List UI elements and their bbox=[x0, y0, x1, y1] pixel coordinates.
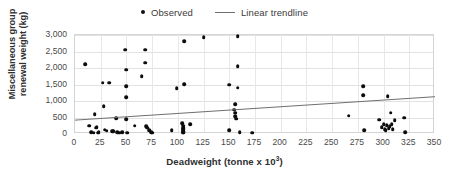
linear-trendline bbox=[75, 35, 435, 134]
y-axis-tick-label: 2,000 bbox=[31, 62, 67, 72]
y-axis-tick-label: 2,500 bbox=[31, 46, 67, 56]
y-axis-tick-label: 1,000 bbox=[31, 95, 67, 105]
trendline-segment bbox=[75, 97, 435, 120]
x-axis-title-base: Deadweight (tonne x 10 bbox=[166, 156, 275, 167]
x-axis-title-tail: ) bbox=[279, 156, 282, 167]
x-axis-title: Deadweight (tonne x 103) bbox=[0, 155, 449, 167]
dot-marker-icon bbox=[141, 10, 145, 14]
line-marker-icon bbox=[215, 12, 235, 13]
y-axis-tick-label: 500 bbox=[31, 112, 67, 122]
scatter-chart: Observed Linear trendline Miscellaneous … bbox=[0, 0, 449, 179]
legend-label-observed: Observed bbox=[151, 7, 193, 18]
y-axis-tick-label: 3,000 bbox=[31, 29, 67, 39]
legend-item-linear-trendline: Linear trendline bbox=[215, 7, 308, 18]
legend-item-observed: Observed bbox=[141, 7, 193, 18]
chart-legend: Observed Linear trendline bbox=[0, 2, 449, 22]
y-axis-tick-label: 1,500 bbox=[31, 79, 67, 89]
legend-label-linear-trendline: Linear trendline bbox=[241, 7, 308, 18]
plot-area bbox=[74, 34, 434, 133]
x-axis-tick-label: 350 bbox=[418, 137, 449, 147]
